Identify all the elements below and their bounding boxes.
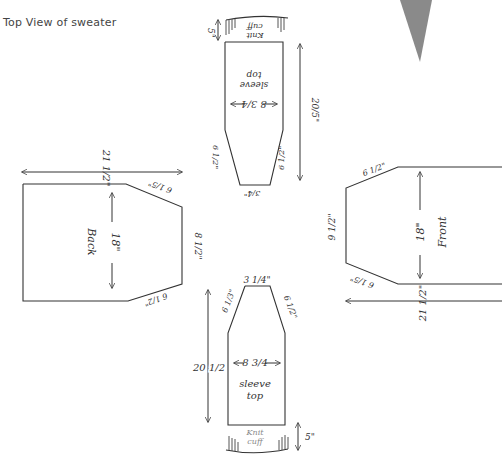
back-width: 21 1/2" — [101, 149, 112, 187]
sleeve-bottom-cuff-height: 5" — [305, 432, 315, 442]
sleeve-top-label-1: sleeve — [240, 80, 269, 90]
back-label: Back — [85, 227, 98, 256]
sleeve-top-cuff-label-2: cuff — [246, 22, 263, 31]
sleeve-top-cuff-label-1: Knit — [246, 31, 265, 40]
sleeve-bottom-end-width: 3 1/4" — [243, 275, 270, 285]
front-label: Front — [436, 216, 449, 249]
sleeve-bottom-taper-right: 6 1/2" — [282, 294, 299, 320]
front-height: 18" — [414, 222, 427, 241]
sweater-pattern-diagram: Knit cuff 5" sleeve top 8 3/4 20/5" 6 1/… — [0, 0, 502, 467]
sleeve-bottom-length: 20 1/2 — [192, 362, 225, 373]
sleeve-bottom-label-2: top — [247, 390, 264, 401]
sleeve-top-taper-right: 6 1/2" — [277, 146, 286, 170]
sleeve-top-label-2: top — [246, 70, 261, 80]
front-side: 9 1/2" — [327, 213, 337, 240]
sleeve-bottom-label-1: sleeve — [239, 378, 271, 389]
back-shoulder-top: 6 1/5" — [147, 178, 173, 195]
gray-wedge-shape — [400, 0, 432, 62]
front-width: 21 1/2" — [417, 285, 428, 323]
sleeve-top-cuff-height: 5" — [206, 28, 216, 38]
back-height: 18" — [109, 232, 122, 251]
front-shoulder-bottom: 6 1/5" — [349, 273, 375, 290]
sleeve-top-taper-left: 6 1/2" — [211, 145, 220, 169]
front-shoulder-top: 6 1/2" — [361, 161, 387, 178]
sleeve-bottom-cuff-label-2: cuff — [247, 437, 264, 446]
back-side: 8 1/2" — [193, 232, 203, 259]
sleeve-top-width: 8 3/4 — [241, 99, 267, 110]
sleeve-top-end-width: 3/4" — [244, 189, 261, 198]
back-shoulder-bottom: 6 1/2" — [143, 291, 169, 308]
sleeve-bottom-width: 8 3/4 — [242, 357, 268, 368]
sleeve-bottom-taper-left: 6 1/3" — [220, 288, 237, 314]
sleeve-bottom-cuff-label-1: Knit — [246, 428, 265, 437]
sleeve-top-length: 20/5" — [310, 97, 320, 122]
